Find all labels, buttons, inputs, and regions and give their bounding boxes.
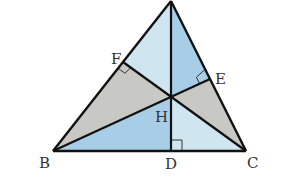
label-f: F	[111, 50, 121, 68]
label-c: C	[247, 154, 258, 172]
label-d: D	[165, 155, 177, 173]
label-h: H	[155, 108, 168, 126]
orthocenter-diagram: F E H B D C	[0, 0, 285, 193]
label-b: B	[39, 154, 50, 172]
label-e: E	[215, 70, 226, 88]
